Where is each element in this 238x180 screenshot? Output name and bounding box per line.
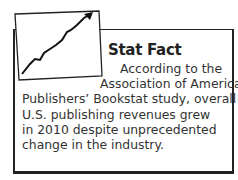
text-line: Publishers’ Bookstat study, overall (22, 91, 232, 106)
stat-fact-title: Stat Fact (108, 41, 181, 59)
text-line: change in the industry. (22, 137, 232, 152)
text-line: Association of American (22, 76, 232, 91)
text-line: According to the (22, 61, 232, 76)
stat-fact-text: According to the Association of American… (22, 61, 232, 152)
text-line: in 2010 despite unprecedented (22, 122, 232, 137)
text-line: U.S. publishing revenues grew (22, 107, 232, 122)
